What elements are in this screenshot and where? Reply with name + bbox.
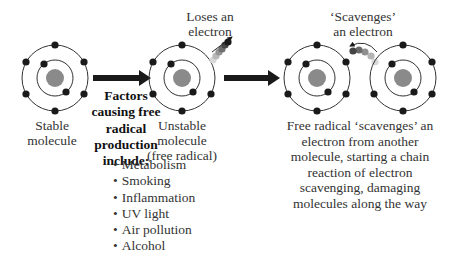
- victim-molecule-atom: [370, 41, 436, 114]
- scavenges-electron-label: ‘Scavenges’ an electron: [318, 9, 408, 39]
- unstable-molecule-label: Unstable molecule (free radical): [130, 118, 234, 163]
- list-item: Inflammation: [113, 190, 195, 206]
- arrow-to-chain-reaction: [224, 70, 280, 86]
- loses-electron-label: Loses an electron: [170, 9, 250, 39]
- nucleus-icon: [308, 69, 326, 87]
- stable-molecule-atom: [22, 41, 88, 114]
- list-item: Air pollution: [113, 222, 195, 238]
- nucleus-icon: [394, 69, 412, 87]
- chain-reaction-description: Free radical ‘scavenges’ an electron fro…: [260, 118, 457, 212]
- list-item: Smoking: [113, 173, 195, 189]
- nucleus-icon: [46, 69, 64, 87]
- scavenging-radical-atom: [284, 41, 350, 114]
- list-item: Alcohol: [113, 238, 195, 254]
- list-item: UV light: [113, 206, 195, 222]
- factors-list: Metabolism Smoking Inflammation UV light…: [113, 157, 195, 255]
- nucleus-icon: [173, 69, 191, 87]
- arrow-to-unstable: [93, 70, 151, 86]
